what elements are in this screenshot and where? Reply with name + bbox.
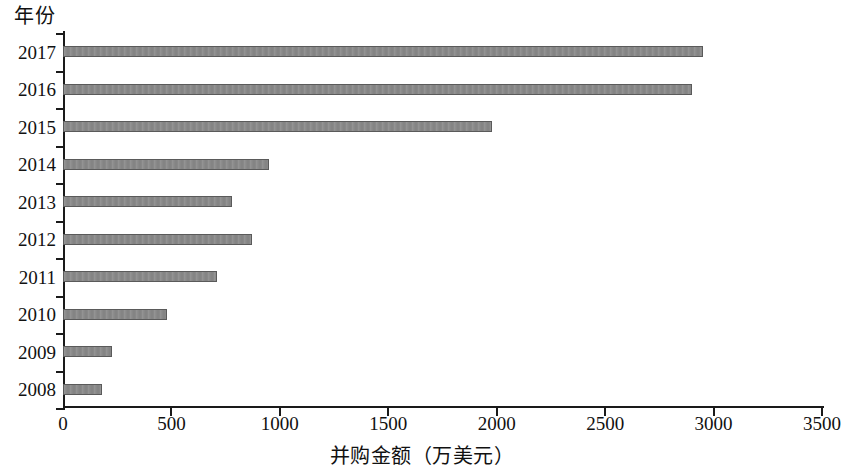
x-axis-tick-label: 0 <box>58 414 68 433</box>
y-axis-tick <box>56 333 63 335</box>
x-axis-tick-label: 1500 <box>369 414 407 433</box>
x-axis-tick-label: 2000 <box>478 414 516 433</box>
bar-2008 <box>63 384 102 395</box>
y-axis-tick-label: 2010 <box>0 305 56 324</box>
y-axis-tick <box>56 108 63 110</box>
x-axis-title: 并购金额（万美元） <box>0 444 844 468</box>
y-axis-tick-label: 2011 <box>0 268 56 287</box>
y-axis-tick-label: 2008 <box>0 380 56 399</box>
x-axis-tick-label: 3500 <box>803 414 841 433</box>
bar-2009 <box>63 346 112 357</box>
y-axis-tick <box>56 371 63 373</box>
y-axis-tick <box>56 71 63 73</box>
y-axis-tick <box>56 296 63 298</box>
bar-2010 <box>63 309 167 320</box>
x-axis-tick-label: 2500 <box>586 414 624 433</box>
x-axis-tick-label: 1000 <box>261 414 299 433</box>
bar-2015 <box>63 121 492 132</box>
bar-2011 <box>63 271 217 282</box>
y-axis-title: 年份 <box>14 4 55 28</box>
y-axis-tick-label: 2013 <box>0 193 56 212</box>
y-axis-tick-label: 2012 <box>0 230 56 249</box>
y-axis-tick <box>56 183 63 185</box>
y-axis-tick-label: 2014 <box>0 155 56 174</box>
y-axis-tick-label: 2016 <box>0 80 56 99</box>
y-axis-tick-label: 2015 <box>0 118 56 137</box>
x-axis-tick-label: 3000 <box>695 414 733 433</box>
bar-2013 <box>63 196 232 207</box>
plot-area <box>63 33 822 408</box>
y-axis-tick-label: 2009 <box>0 343 56 362</box>
y-axis-tick-label: 2017 <box>0 43 56 62</box>
y-axis-tick <box>56 221 63 223</box>
bar-2016 <box>63 84 692 95</box>
y-axis-tick <box>56 146 63 148</box>
horizontal-bar-chart: 年份 2017201620152014201320122011201020092… <box>0 0 844 472</box>
y-axis-tick <box>56 33 63 35</box>
y-axis-tick <box>56 258 63 260</box>
bar-2012 <box>63 234 252 245</box>
y-axis-tick <box>56 408 63 410</box>
bar-2017 <box>63 46 703 57</box>
bar-2014 <box>63 159 269 170</box>
x-axis-tick-label: 500 <box>157 414 186 433</box>
